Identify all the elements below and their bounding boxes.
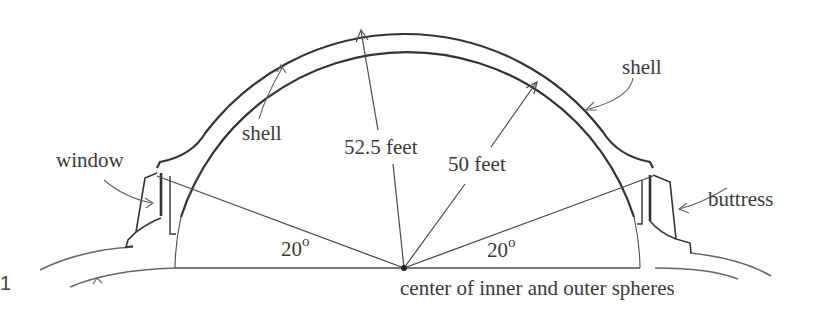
degree-symbol-right: o (508, 234, 516, 250)
angle-value-left: 20 (281, 237, 302, 261)
dome-cross-section-diagram: 1 (0, 0, 819, 318)
right-shell-pointer (586, 78, 633, 110)
angle-label-right: 20o (487, 234, 516, 262)
window-label: window (56, 148, 125, 172)
left-shell-pointer (259, 65, 286, 119)
angle-value-right: 20 (487, 238, 508, 262)
angle-lines (157, 176, 653, 268)
degree-symbol-left: o (302, 233, 310, 249)
center-label: center of inner and outer spheres (400, 276, 675, 300)
right-window-structure (637, 175, 691, 253)
figure-number: 1 (0, 272, 11, 294)
shell-label-right: shell (622, 55, 662, 79)
buttress-label: buttress (708, 187, 773, 211)
shell-label-left: shell (242, 121, 282, 145)
inner-radius-label: 50 feet (448, 152, 506, 176)
outer-radius-label: 52.5 feet (344, 135, 418, 159)
window-pointer (104, 180, 153, 208)
left-window-structure (126, 173, 176, 247)
center-point (401, 265, 407, 271)
inner-sphere-extension (175, 217, 640, 268)
angle-label-left: 20o (281, 233, 310, 261)
